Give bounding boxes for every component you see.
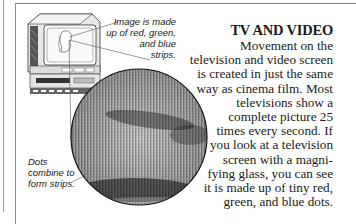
body-line: times every second. If: [143, 124, 333, 138]
body-line: television and video screen: [143, 53, 333, 67]
caption-line: form strips.: [28, 178, 75, 189]
body-line: way as cinema film. Most: [143, 82, 333, 96]
article-title: TV AND VIDEO: [143, 22, 333, 39]
body-line: you look at a television: [143, 138, 333, 152]
body-line: it is made up of tiny red,: [143, 181, 333, 195]
article-tv-and-video: TV AND VIDEO Movement on the television …: [143, 22, 333, 209]
body-line: Movement on the: [143, 39, 333, 53]
television-icon: [28, 14, 100, 94]
body-line: complete picture 25: [143, 110, 333, 124]
caption-dots-strips: Dots combine to form strips.: [28, 156, 75, 189]
body-line: fying glass, you can see: [143, 167, 333, 181]
body-line: screen with a magni-: [143, 153, 333, 167]
body-line: televisions show a: [143, 96, 333, 110]
body-line: green, and blue dots.: [143, 195, 333, 209]
body-line: is created in just the same: [143, 67, 333, 81]
caption-line: combine to: [28, 167, 75, 178]
caption-line: Dots: [28, 156, 75, 167]
